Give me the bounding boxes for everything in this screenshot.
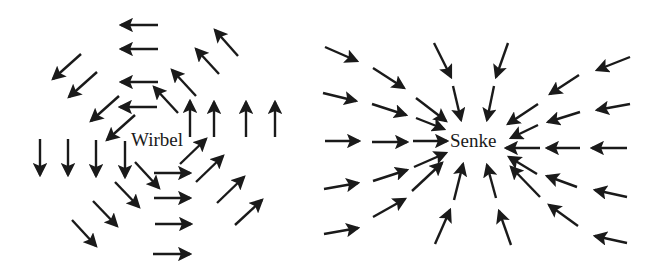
vector-arrow (499, 211, 511, 245)
vector-arrow (324, 228, 358, 234)
vector-arrow (595, 190, 627, 197)
vector-arrow (135, 162, 159, 188)
vector-arrow (154, 87, 178, 113)
vector-arrow (373, 170, 407, 181)
vector-arrow (549, 205, 578, 226)
vector-arrow (547, 176, 577, 187)
vector-arrow (453, 86, 461, 120)
vector-arrow (215, 30, 238, 56)
vector-arrow (416, 118, 444, 129)
vector-arrow (487, 165, 496, 198)
vector-arrow (91, 96, 119, 121)
vector-arrow (509, 157, 537, 174)
vector-arrow (217, 177, 244, 203)
vector-arrow (373, 68, 404, 88)
vector-arrow (196, 156, 223, 182)
vector-arrow (172, 70, 196, 96)
vector-arrow (53, 54, 81, 79)
vector-arrow (373, 199, 405, 217)
vector-arrow (372, 104, 406, 115)
senke-label: Senke (450, 131, 496, 150)
vector-arrow (508, 104, 538, 124)
vector-arrow (115, 182, 139, 207)
vector-arrow (325, 47, 357, 61)
vector-arrow (511, 167, 540, 197)
vector-arrow (235, 200, 262, 225)
vector-arrow (487, 86, 494, 120)
vector-arrow (595, 236, 627, 243)
vector-arrow (496, 43, 508, 77)
vector-arrow (454, 164, 463, 200)
vector-arrow (597, 57, 630, 70)
vector-arrow (323, 93, 356, 101)
vector-arrow (324, 183, 358, 189)
vector-arrow (434, 43, 451, 77)
vector-arrow (435, 210, 450, 244)
vector-arrow (597, 104, 630, 110)
vector-arrow (550, 75, 579, 94)
vector-arrow (72, 220, 96, 246)
vector-arrow (69, 72, 97, 97)
vector-arrow (93, 201, 117, 226)
vector-arrow (196, 49, 219, 74)
wirbel-label: Wirbel (131, 130, 183, 149)
vector-arrow (180, 139, 206, 164)
vector-arrow (548, 112, 580, 122)
vector-field-figure (0, 0, 652, 270)
vector-arrow (416, 98, 446, 121)
vector-arrow (511, 125, 538, 138)
